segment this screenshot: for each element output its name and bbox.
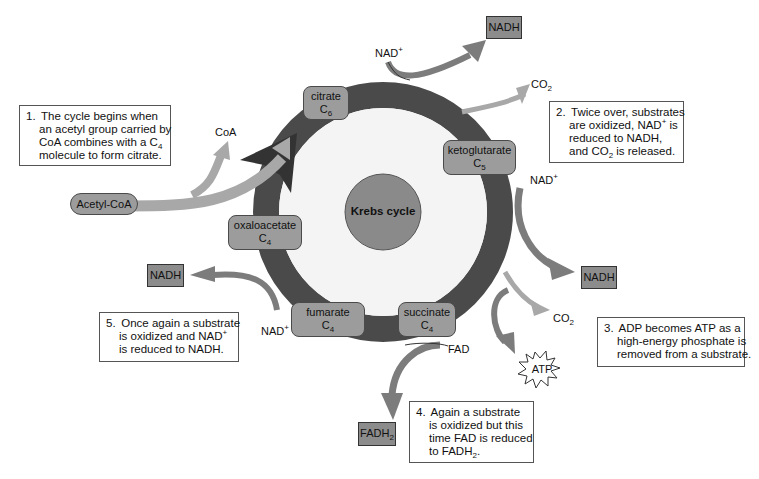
co2-text: CO (553, 312, 570, 324)
product-fadh2: FADH2 (358, 422, 396, 446)
note-line: 5. Once again a substrate (106, 317, 232, 330)
node-ketoglutarate-carbons: C5 (444, 157, 515, 170)
nadh-left-arrowhead-icon (190, 266, 215, 282)
coa-arrowhead-icon (213, 141, 230, 160)
label-nad-left: NAD+ (261, 325, 289, 337)
label-coa: CoA (215, 126, 236, 138)
carbon-count: 4 (267, 238, 271, 247)
note-text: . (477, 445, 480, 457)
step-number: 2. (556, 106, 568, 119)
note-text: are oxidized, NAD (569, 119, 662, 131)
note-line: 2. Twice over, substrates (556, 106, 677, 119)
nadh-left-arrow-icon (212, 274, 277, 310)
note-text: is (666, 119, 678, 131)
note-line: is oxidized and NAD+ (106, 330, 232, 343)
node-oxaloacetate-carbons: C4 (229, 232, 301, 245)
carbon-symbol: C (322, 319, 330, 331)
note-text: and CO (569, 145, 609, 157)
nad-text: NAD (530, 174, 553, 186)
co2-text: CO (531, 78, 548, 90)
label-co2-top: CO2 (531, 78, 552, 90)
fadh-text: FADH (360, 427, 389, 439)
carbon-count: 4 (330, 325, 334, 334)
node-fumarate: fumarate C4 (291, 302, 365, 337)
carbon-count: 6 (328, 109, 332, 118)
carbon-symbol: C (421, 319, 429, 331)
node-fumarate-name: fumarate (292, 306, 364, 319)
note-line: 1. The cycle begins when (26, 110, 164, 123)
note-line: molecule to form citrate. (26, 149, 164, 162)
node-citrate-carbons: C6 (304, 103, 348, 116)
node-citrate-name: citrate (304, 90, 348, 103)
note-step-3: 3. ADP becomes ATP as a high-energy phos… (597, 317, 745, 367)
node-fumarate-carbons: C4 (292, 319, 364, 332)
note-line: reduced to NADH, (556, 132, 677, 145)
step-number: 1. (26, 110, 38, 123)
nad-text: NAD (375, 47, 398, 59)
plus-sign: + (398, 45, 403, 54)
product-nadh-left: NADH (147, 264, 184, 287)
label-fad: FAD (448, 343, 469, 355)
note-line: 4. Again a substrate (416, 406, 527, 419)
co2-right-arrowhead-icon (530, 300, 550, 316)
fadh2-arrowhead-icon (381, 393, 403, 420)
note-step-4: 4. Again a substrate is oxidized but thi… (409, 401, 534, 463)
note-text: Again a substrate (431, 406, 521, 418)
label-atp: ATP (522, 363, 562, 375)
node-oxaloacetate-name: oxaloacetate (229, 219, 301, 232)
carbon-count: 5 (481, 163, 485, 172)
node-oxaloacetate: oxaloacetate C4 (228, 215, 302, 250)
plus-sign: + (284, 323, 289, 332)
note-line: to FADH2. (416, 445, 527, 458)
step-number: 3. (604, 322, 616, 335)
nadh-right-arrow-icon (518, 188, 557, 268)
carbon-symbol: C (259, 232, 267, 244)
note-step-1: 1. The cycle begins when an acetyl group… (19, 105, 171, 166)
product-nadh-top: NADH (486, 16, 522, 39)
note-text: The cycle begins when (41, 110, 158, 122)
note-step-2: 2. Twice over, substrates are oxidized, … (549, 101, 684, 163)
note-line: 3. ADP becomes ATP as a (604, 322, 738, 335)
note-line: CoA combines with a C4 (26, 136, 164, 149)
subscript-two: 2 (389, 433, 393, 442)
node-ketoglutarate: ketoglutarate C5 (443, 140, 516, 175)
node-succinate-carbons: C4 (399, 319, 455, 332)
note-line: high-energy phosphate is (604, 335, 738, 348)
subscript-two: 2 (570, 318, 574, 327)
acetyl-coa-input: Acetyl-CoA (70, 193, 138, 215)
carbon-count: 4 (429, 325, 433, 334)
note-text: is released. (613, 145, 675, 157)
note-text: ADP becomes ATP as a (619, 322, 741, 334)
nadh-right-arrowhead-icon (548, 258, 575, 280)
step-number: 5. (106, 317, 118, 330)
note-line: is oxidized but this (416, 419, 527, 432)
note-text: CoA combines with a C (39, 136, 158, 148)
carbon-symbol: C (320, 103, 328, 115)
note-line: are oxidized, NAD+ is (556, 119, 677, 132)
node-succinate-name: succinate (399, 306, 455, 319)
step-number: 4. (416, 406, 428, 419)
plus-sign: + (553, 172, 558, 181)
diagram-graphics (0, 0, 759, 479)
note-line: is reduced to NADH. (106, 343, 232, 356)
note-text: to FADH (429, 445, 472, 457)
nad-text: NAD (261, 325, 284, 337)
product-nadh-right: NADH (581, 266, 617, 289)
coa-arrow-icon (192, 153, 222, 195)
fadh2-arrow-icon (392, 345, 440, 395)
label-co2-right: CO2 (553, 312, 574, 324)
node-citrate: citrate C6 (303, 86, 349, 120)
note-text: is oxidized and NAD (119, 330, 223, 342)
note-text: Twice over, substrates (571, 106, 685, 118)
node-ketoglutarate-name: ketoglutarate (444, 144, 515, 157)
note-line: an acetyl group carried by (26, 123, 164, 136)
note-step-5: 5. Once again a substrate is oxidized an… (99, 312, 239, 362)
node-succinate: succinate C4 (398, 302, 456, 337)
co2-top-arrowhead-icon (516, 84, 530, 104)
superscript: + (223, 328, 228, 337)
label-nad-right: NAD+ (530, 174, 558, 186)
krebs-cycle-title: Krebs cycle (345, 205, 421, 217)
label-nad-top: NAD+ (375, 47, 403, 59)
co2-top-arrow-icon (462, 94, 525, 112)
subscript-two: 2 (548, 84, 552, 93)
